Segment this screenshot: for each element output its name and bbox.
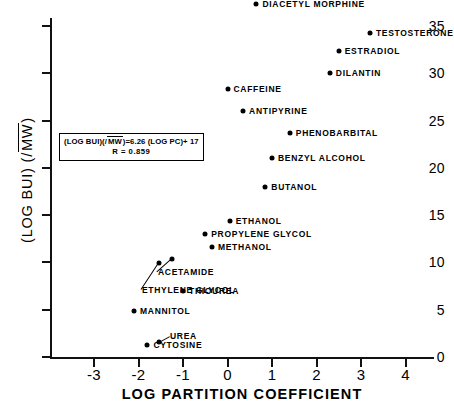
data-point [241,109,246,114]
data-point [254,2,259,7]
data-point [203,232,208,237]
data-point-label: METHANOL [218,242,272,252]
data-point-label: ANTIPYRINE [249,106,307,116]
y-tick-label-20: 20 [411,160,445,176]
data-point-label: MANNITOL [140,306,190,316]
y-tick-5 [42,309,51,311]
data-point [181,288,186,293]
data-point [270,156,275,161]
x-tick-label--3: -3 [79,366,109,383]
x-tick-label--2: -2 [124,366,154,383]
data-point [367,30,372,35]
y-tick-10 [42,261,51,263]
data-point [327,71,332,76]
data-point-label: TESTOSTERONE [376,28,454,38]
data-point-label: ETHANOL [236,216,282,226]
data-point [145,342,150,347]
regression-equation-text: (LOG BUI)(/MW)=6.26 (LOG PC)+ 17 [64,137,199,147]
y-tick-label-0: 0 [411,349,445,365]
data-point-label: DIACETYL MORPHINE [262,0,364,9]
x-tick-label-0: 0 [213,366,243,383]
y-tick-label-5: 5 [411,302,445,318]
data-point [132,308,137,313]
x-tick-label--1: -1 [168,366,198,383]
x-tick-label-4: 4 [391,366,421,383]
x-axis-line [50,357,434,359]
data-point [287,130,292,135]
x-tick-label-1: 1 [257,366,287,383]
y-tick-label-25: 25 [411,113,445,129]
data-point-label: THIOUREA [189,286,239,296]
data-point-label: BENZYL ALCOHOL [278,153,366,163]
y-tick-35 [42,25,51,27]
y-tick-0 [42,356,51,358]
data-point-label: PROPYLENE GLYCOL [211,229,312,239]
y-axis-title: (LOG BUI) (/MW) [19,75,35,285]
data-point [209,245,214,250]
y-tick-25 [42,120,51,122]
data-point-label: CYTOSINE [153,340,202,350]
data-point-label: PHENOBARBITAL [296,128,378,138]
data-point-label: BUTANOL [271,182,317,192]
data-point [227,218,232,223]
y-tick-label-10: 10 [411,254,445,270]
data-point-label: ESTRADIOL [345,46,400,56]
data-point [263,184,268,189]
x-tick-label-3: 3 [346,366,376,383]
y-tick-30 [42,72,51,74]
data-point [225,87,230,92]
y-tick-label-30: 30 [411,65,445,81]
x-tick-label-2: 2 [302,366,332,383]
data-point-label: CAFFEINE [234,84,282,94]
data-point-label: ACETAMIDE [158,267,214,277]
regression-equation-box: (LOG BUI)(/MW)=6.26 (LOG PC)+ 17 R = 0.8… [59,133,204,161]
y-tick-20 [42,167,51,169]
data-point-label: DILANTIN [336,68,381,78]
y-tick-label-15: 15 [411,207,445,223]
y-tick-15 [42,214,51,216]
data-point [336,48,341,53]
x-axis-title: LOG PARTITION COEFFICIENT [50,386,434,402]
correlation-coefficient-text: R = 0.859 [64,147,199,157]
